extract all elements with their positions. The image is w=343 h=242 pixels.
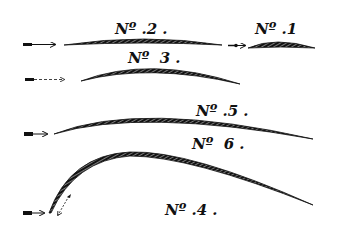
profile-5	[54, 118, 313, 139]
label-profile-1: Nº .1	[255, 22, 297, 37]
profile-3	[81, 69, 240, 84]
label-profile-5: Nº .5 .	[196, 104, 249, 119]
profile-2	[64, 39, 222, 45]
arrow-profile-3	[25, 78, 64, 81]
arrow-profile-1	[228, 44, 245, 48]
profile-1	[248, 42, 315, 48]
arrow-profile-2	[23, 43, 55, 46]
arrow-profile-4	[23, 211, 44, 215]
label-profile-2: Nº .2 .	[115, 22, 168, 37]
arrow-profile-5	[24, 132, 47, 136]
label-profile-3: Nº 3 .	[128, 51, 181, 66]
label-profile-6: Nº 6 .	[192, 137, 245, 152]
label-profile-4: Nº .4 .	[165, 203, 218, 218]
